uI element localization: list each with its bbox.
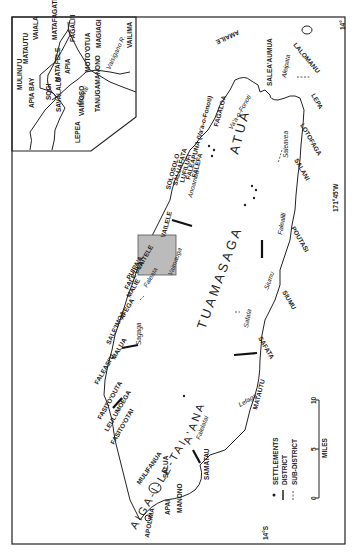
svg-text:SUB-DISTRICT: SUB-DISTRICT (291, 439, 298, 485)
svg-text:Saleavea: Saleavea (282, 131, 289, 158)
svg-text:Aleipata: Aleipata (280, 53, 292, 79)
svg-text:DISTRICT: DISTRICT (281, 455, 288, 485)
longitude-label: 171°45'W (332, 183, 339, 212)
district-boundary-safata (234, 353, 257, 355)
svg-text:Mulivai: Mulivai (75, 85, 90, 107)
svg-text:MATAUTU: MATAUTU (22, 33, 29, 64)
subdistrict-line (140, 295, 145, 300)
nuutele-island (302, 26, 312, 34)
district-boundary-vailele (172, 220, 192, 226)
svg-text:AMAILE: AMAILE (214, 29, 240, 46)
svg-text:0: 0 (310, 496, 317, 500)
svg-text:APIA: APIA (64, 58, 71, 74)
svg-text:MAGIAGI: MAGIAGI (95, 19, 102, 48)
district-boundary-samatau (193, 450, 200, 463)
settlement-dot-icon (273, 494, 276, 497)
svg-text:5: 5 (310, 447, 317, 451)
inset-labels: MULINU'U APIA BAY MATAUTU VAIALA MATAFAG… (16, 0, 133, 143)
svg-text:MANONO: MANONO (176, 483, 183, 513)
svg-text:MILES: MILES (321, 437, 328, 458)
svg-text:VAILIMA: VAILIMA (126, 21, 133, 48)
svg-text:SALEA'AUMUA: SALEA'AUMUA (266, 38, 273, 86)
svg-text:TANUGAMANONO: TANUGAMANONO (94, 55, 101, 112)
svg-text:APAI: APAI (164, 500, 171, 515)
svg-text:SAMATAU: SAMATAU (203, 448, 210, 480)
svg-text:SETTLEMENTS: SETTLEMENTS (272, 437, 279, 485)
svg-text:APIA BAY: APIA BAY (28, 77, 35, 108)
svg-text:Safata: Safata (242, 308, 252, 328)
latitude-label: 14°S (262, 525, 269, 540)
svg-text:VAILELE: VAILELE (159, 210, 173, 238)
svg-text:Vaisigano R.: Vaisigano R. (105, 34, 128, 71)
map-canvas: MULINU'U APIA BAY MATAUTU VAIALA MATAFAG… (0, 0, 360, 555)
svg-text:SALUA: SALUA (162, 455, 169, 478)
svg-text:MATAFELE: MATAFELE (54, 47, 61, 82)
svg-text:SOGI: SOGI (45, 84, 52, 100)
svg-text:10: 10 (310, 396, 317, 404)
svg-text:LALOMANU: LALOMANU (292, 41, 321, 74)
scale-bar: 0 5 10 MILES (310, 396, 328, 500)
svg-text:POUTASI: POUTASI (290, 225, 310, 253)
svg-text:Siumu: Siumu (262, 270, 275, 290)
svg-text:LEPA: LEPA (310, 92, 325, 110)
svg-text:Sagaga: Sagaga (135, 322, 143, 345)
svg-text:FAGALOA: FAGALOA (212, 94, 227, 127)
svg-text:LEPEA: LEPEA (74, 121, 81, 143)
svg-text:MATAFAGATELE: MATAFAGATELE (51, 0, 58, 40)
svg-text:SALANI: SALANI (293, 157, 311, 182)
svg-text:VAIALA: VAIALA (32, 16, 39, 40)
legend: SETTLEMENTS DISTRICT SUB-DISTRICT (272, 437, 298, 500)
corner-label: 14° (339, 20, 346, 30)
svg-text:LOTOFAGA: LOTOFAGA (299, 122, 323, 157)
svg-text:SIUMU: SIUMU (281, 289, 298, 311)
svg-text:TUAMASAGA: TUAMASAGA (194, 224, 245, 331)
svg-text:AFEGA: AFEGA (118, 297, 136, 320)
svg-text:Falealili: Falealili (276, 212, 287, 235)
svg-text:FAGALI'I: FAGALI'I (69, 15, 76, 42)
svg-text:MOTO'OTUA: MOTO'OTUA (84, 32, 91, 72)
